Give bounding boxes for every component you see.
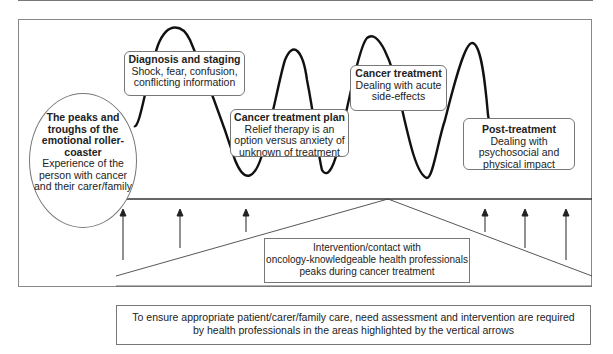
stage-description: Relief therapy is an option versus anxie… xyxy=(234,124,345,159)
stage-description: Dealing with psychosocial and physical i… xyxy=(467,136,571,171)
stage-treatment-plan-box: Cancer treatment plan Relief therapy is … xyxy=(230,109,349,157)
stage-title: Diagnosis and staging xyxy=(128,54,241,66)
stage-post-treatment-box: Post-treatment Dealing with psychosocial… xyxy=(463,118,575,170)
ellipse-title: The peaks and troughs of the emotional r… xyxy=(30,112,136,158)
rollercoaster-title-ellipse: The peaks and troughs of the emotional r… xyxy=(29,93,137,228)
stage-diagnosis-box: Diagnosis and staging Shock, fear, confu… xyxy=(124,51,245,96)
footer-line-2: by health professionals in the areas hig… xyxy=(117,324,590,337)
footer-note-box: To ensure appropriate patient/carer/fami… xyxy=(116,305,591,345)
intervention-note-box: Intervention/contact with oncology-knowl… xyxy=(264,238,470,283)
stage-description: Dealing with acute side-effects xyxy=(354,80,443,103)
intervention-line-2: oncology-knowledgeable health profession… xyxy=(265,254,469,266)
ellipse-description: Experience of the person with cancer and… xyxy=(30,158,136,193)
footer-line-1: To ensure appropriate patient/carer/fami… xyxy=(117,311,590,324)
intervention-line-1: Intervention/contact with xyxy=(265,242,469,254)
stage-title: Cancer treatment plan xyxy=(234,112,345,124)
stage-description: Shock, fear, confusion, conflicting info… xyxy=(128,66,241,89)
stage-title: Cancer treatment xyxy=(354,68,443,80)
stage-title: Post-treatment xyxy=(467,124,571,136)
intervention-line-3: peaks during cancer treatment xyxy=(265,266,469,278)
stage-cancer-treatment-box: Cancer treatment Dealing with acute side… xyxy=(350,65,447,111)
